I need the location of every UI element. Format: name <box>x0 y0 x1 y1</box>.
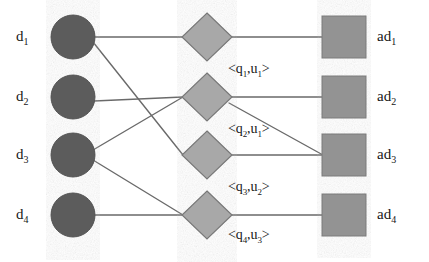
label-d2: d2 <box>16 89 29 107</box>
edges-layer <box>93 37 323 215</box>
label-p2: <q2,u1> <box>228 122 270 139</box>
node-p2[interactable] <box>182 73 232 121</box>
graph-canvas <box>0 0 429 262</box>
label-p4: <q4,u3> <box>228 228 270 245</box>
node-ad4[interactable] <box>322 194 366 236</box>
label-d3: d3 <box>16 147 29 165</box>
document-nodes-layer <box>51 15 95 237</box>
label-ad3: ad3 <box>377 147 396 165</box>
edge-d2-p2 <box>94 97 183 101</box>
label-d4: d4 <box>16 207 29 225</box>
label-p1: <q1,u1> <box>228 62 270 79</box>
node-p1[interactable] <box>182 13 232 61</box>
pair-nodes-layer <box>182 13 232 239</box>
node-d1[interactable] <box>51 15 95 59</box>
node-d3[interactable] <box>51 133 95 177</box>
label-d1: d1 <box>16 29 29 47</box>
node-d2[interactable] <box>51 75 95 119</box>
node-p3[interactable] <box>182 131 232 179</box>
tripartite-graph-diagram: d1 d2 d3 d4 ad1 ad2 ad3 ad4 <q1,u1> <q2,… <box>0 0 429 262</box>
node-p4[interactable] <box>182 191 232 239</box>
label-p3: <q3,u2> <box>228 180 270 197</box>
node-ad2[interactable] <box>322 76 366 118</box>
label-ad2: ad2 <box>377 89 396 107</box>
ad-nodes-layer <box>322 16 366 236</box>
node-ad1[interactable] <box>322 16 366 58</box>
node-d4[interactable] <box>51 193 95 237</box>
label-ad4: ad4 <box>377 207 396 225</box>
edge-d3-p2 <box>93 97 183 150</box>
edge-d3-p4 <box>93 160 183 215</box>
label-ad1: ad1 <box>377 29 396 47</box>
node-ad3[interactable] <box>322 134 366 176</box>
